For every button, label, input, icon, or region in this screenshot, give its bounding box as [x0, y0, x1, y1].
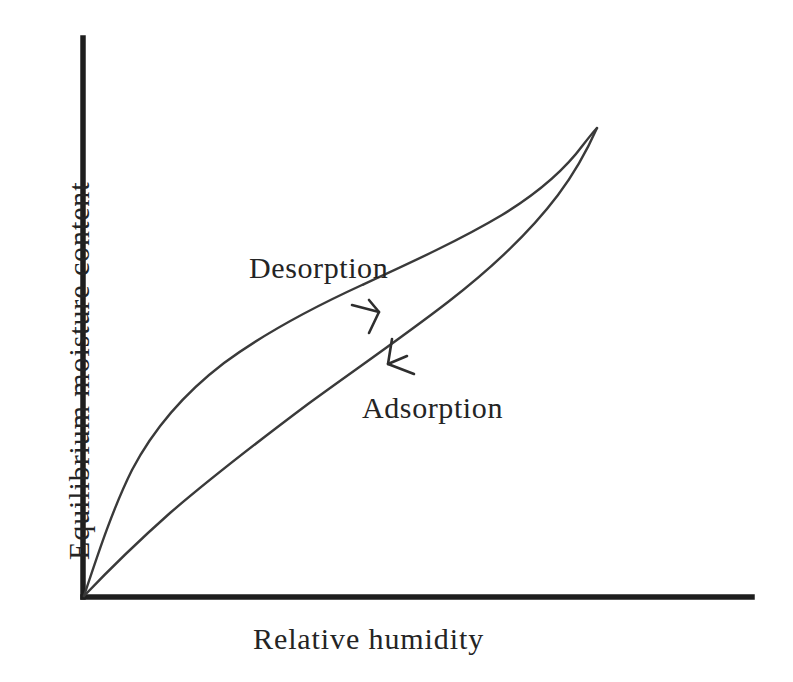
desorption-curve-label: Desorption	[249, 251, 388, 285]
desorption-arrow-up-right-icon	[352, 300, 379, 333]
plot-canvas	[0, 0, 793, 682]
x-axis-label: Relative humidity	[253, 622, 484, 656]
sorption-isotherm-figure: Equilibrium moisture content Relative hu…	[0, 0, 793, 682]
desorption-curve	[84, 128, 597, 596]
adsorption-arrow-up-left-icon	[388, 339, 414, 374]
axes-group	[83, 38, 752, 597]
y-axis-label: Equilibrium moisture content	[62, 182, 96, 560]
adsorption-curve-label: Adsorption	[362, 391, 503, 425]
adsorption-curve	[84, 128, 597, 596]
